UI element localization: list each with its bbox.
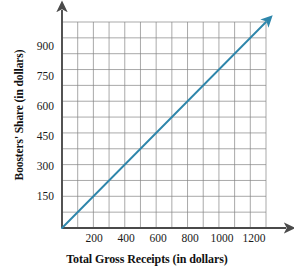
grid-vertical-lines — [78, 22, 266, 228]
data-series-line — [62, 22, 266, 228]
grid-horizontal-lines — [62, 22, 266, 212]
chart-figure: Boosters' Share (in dollars) Total Gross… — [0, 0, 294, 277]
plot-area — [0, 0, 294, 277]
